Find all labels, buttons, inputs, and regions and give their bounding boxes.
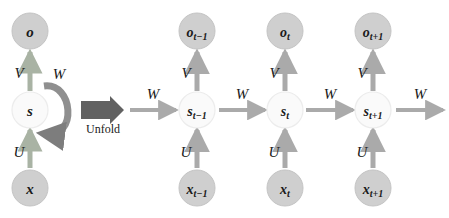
edge-U-t-minus-1-label: U — [181, 144, 193, 160]
folded-edge-W-label: W — [53, 66, 67, 82]
unfolded-edge-W-t-to-t1-label: W — [324, 86, 338, 102]
node-o-folded-label: o — [26, 24, 34, 40]
edge-V-t-label: V — [269, 65, 280, 81]
unfold-caption: Unfold — [86, 122, 120, 136]
rnn-unfold-diagram: o s x V U W Unfold W W W W ot−1 st−1 — [0, 0, 449, 218]
unfolded-edge-W-t-1-to-t-label: W — [236, 86, 250, 102]
edge-V-t-plus-1-label: V — [357, 65, 368, 81]
edge-V-t-minus-1-label: V — [181, 65, 192, 81]
unfolded-edge-W-out-label: W — [414, 86, 428, 102]
node-x-folded-label: x — [25, 181, 34, 197]
node-s-folded-label: s — [26, 103, 33, 119]
edge-U-t-plus-1-label: U — [357, 144, 369, 160]
edge-U-t-label: U — [269, 144, 281, 160]
unfold-arrow-icon — [81, 96, 124, 124]
folded-edge-U-label: U — [14, 144, 26, 160]
folded-edge-V-label: V — [14, 65, 25, 81]
unfolded-edge-W-in-label: W — [147, 86, 161, 102]
diagram-canvas: o s x V U W Unfold W W W W ot−1 st−1 — [0, 0, 449, 218]
